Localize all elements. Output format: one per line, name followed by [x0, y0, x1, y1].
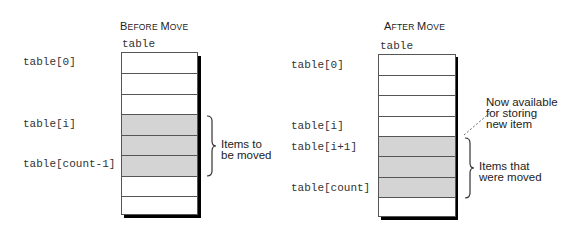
before-cell-6 — [122, 176, 197, 196]
before-cell-5 — [122, 155, 197, 176]
annotation-line: were moved — [479, 172, 542, 183]
after-cell-1 — [379, 75, 455, 95]
after-cell-5 — [379, 156, 455, 177]
after-cell-0 — [379, 55, 455, 75]
heading-char: FTER — [392, 22, 418, 32]
before-cell-7 — [122, 196, 197, 215]
note-line: new item — [486, 119, 558, 130]
after-brace-icon — [463, 137, 477, 199]
heading-char: OVE — [170, 22, 189, 32]
before-cell-2 — [122, 94, 197, 114]
after-index-label-i: table[i] — [291, 120, 344, 132]
before-index-label-0: table[0] — [23, 56, 76, 68]
after-index-label-0: table[0] — [291, 59, 344, 71]
after-move-heading: AFTER MOVE — [384, 20, 445, 32]
after-cell-3 — [379, 116, 455, 136]
before-cell-0 — [122, 53, 197, 73]
before-move-heading: BEFORE MOVE — [120, 20, 188, 32]
before-annotation: Items to be moved — [221, 139, 272, 161]
heading-char: OVE — [426, 22, 445, 32]
heading-char: A — [384, 20, 392, 32]
after-cell-2 — [379, 95, 455, 116]
after-index-label-count: table[count] — [291, 182, 370, 194]
after-annotation: Items that were moved — [479, 161, 542, 183]
before-brace-icon — [205, 115, 219, 177]
before-index-label-count-minus-1: table[count-1] — [23, 158, 115, 170]
after-array-label: table — [380, 40, 413, 52]
before-cell-1 — [122, 73, 197, 94]
heading-char: M — [160, 20, 169, 32]
after-index-label-i-plus-1: table[i+1] — [291, 141, 357, 153]
after-cell-6 — [379, 177, 455, 197]
before-cell-4 — [122, 135, 197, 155]
after-cell-7 — [379, 197, 455, 217]
before-cell-3 — [122, 114, 197, 135]
before-array — [121, 52, 198, 215]
before-index-label-i: table[i] — [23, 118, 76, 130]
after-array — [378, 54, 456, 217]
heading-char: B — [120, 20, 128, 32]
before-array-label: table — [122, 38, 155, 50]
after-available-note: Now available for storing new item — [486, 97, 558, 130]
annotation-line: be moved — [221, 150, 272, 161]
after-cell-4 — [379, 136, 455, 156]
heading-char: EFORE — [128, 22, 161, 32]
